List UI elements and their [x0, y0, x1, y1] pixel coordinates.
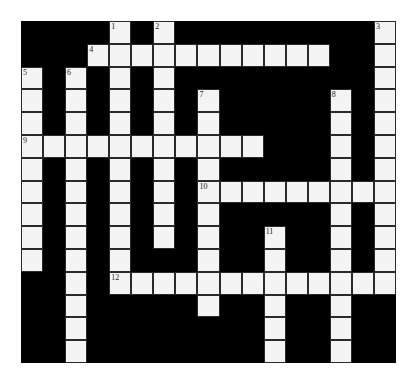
answer-cell[interactable]: 4	[87, 44, 109, 67]
answer-cell[interactable]	[220, 135, 242, 158]
answer-cell[interactable]	[109, 249, 131, 272]
answer-cell[interactable]	[374, 203, 396, 226]
answer-cell[interactable]	[65, 272, 87, 295]
answer-cell[interactable]: 8	[330, 89, 352, 112]
answer-cell[interactable]	[330, 272, 352, 295]
answer-cell[interactable]	[330, 203, 352, 226]
answer-cell[interactable]	[65, 295, 87, 318]
answer-cell[interactable]	[21, 158, 43, 181]
answer-cell[interactable]	[374, 67, 396, 90]
answer-cell[interactable]	[197, 249, 219, 272]
answer-cell[interactable]	[264, 272, 286, 295]
answer-cell[interactable]	[197, 158, 219, 181]
answer-cell[interactable]	[109, 112, 131, 135]
answer-cell[interactable]	[153, 89, 175, 112]
answer-cell[interactable]	[374, 89, 396, 112]
answer-cell[interactable]	[330, 340, 352, 363]
answer-cell[interactable]	[153, 181, 175, 204]
answer-cell[interactable]	[153, 272, 175, 295]
answer-cell[interactable]	[374, 226, 396, 249]
answer-cell[interactable]	[109, 203, 131, 226]
answer-cell[interactable]	[153, 203, 175, 226]
answer-cell[interactable]: 5	[21, 67, 43, 90]
answer-cell[interactable]	[65, 89, 87, 112]
answer-cell[interactable]	[197, 135, 219, 158]
answer-cell[interactable]	[286, 181, 308, 204]
answer-cell[interactable]	[109, 158, 131, 181]
answer-cell[interactable]: 2	[153, 21, 175, 44]
answer-cell[interactable]	[264, 44, 286, 67]
answer-cell[interactable]	[21, 181, 43, 204]
answer-cell[interactable]	[153, 135, 175, 158]
answer-cell[interactable]	[197, 203, 219, 226]
answer-cell[interactable]	[308, 272, 330, 295]
answer-cell[interactable]: 1	[109, 21, 131, 44]
answer-cell[interactable]	[286, 272, 308, 295]
answer-cell[interactable]	[21, 249, 43, 272]
answer-cell[interactable]	[330, 249, 352, 272]
answer-cell[interactable]	[109, 135, 131, 158]
answer-cell[interactable]	[197, 112, 219, 135]
answer-cell[interactable]	[109, 89, 131, 112]
answer-cell[interactable]	[153, 112, 175, 135]
answer-cell[interactable]	[330, 295, 352, 318]
answer-cell[interactable]	[175, 135, 197, 158]
answer-cell[interactable]	[43, 135, 65, 158]
answer-cell[interactable]	[220, 181, 242, 204]
answer-cell[interactable]	[330, 158, 352, 181]
answer-cell[interactable]	[264, 181, 286, 204]
answer-cell[interactable]	[153, 158, 175, 181]
answer-cell[interactable]	[65, 249, 87, 272]
answer-cell[interactable]	[131, 44, 153, 67]
answer-cell[interactable]	[87, 135, 109, 158]
answer-cell[interactable]	[109, 44, 131, 67]
answer-cell[interactable]	[352, 272, 374, 295]
answer-cell[interactable]	[109, 67, 131, 90]
answer-cell[interactable]	[264, 295, 286, 318]
answer-cell[interactable]	[153, 226, 175, 249]
answer-cell[interactable]: 10	[197, 181, 219, 204]
answer-cell[interactable]	[197, 272, 219, 295]
answer-cell[interactable]	[175, 272, 197, 295]
answer-cell[interactable]	[330, 135, 352, 158]
answer-cell[interactable]	[352, 181, 374, 204]
answer-cell[interactable]	[21, 89, 43, 112]
answer-cell[interactable]	[330, 317, 352, 340]
answer-cell[interactable]	[21, 203, 43, 226]
answer-cell[interactable]	[65, 226, 87, 249]
answer-cell[interactable]	[330, 181, 352, 204]
answer-cell[interactable]	[264, 249, 286, 272]
answer-cell[interactable]	[197, 44, 219, 67]
answer-cell[interactable]	[131, 272, 153, 295]
answer-cell[interactable]	[65, 112, 87, 135]
answer-cell[interactable]	[374, 44, 396, 67]
answer-cell[interactable]	[153, 44, 175, 67]
answer-cell[interactable]	[21, 226, 43, 249]
answer-cell[interactable]	[374, 135, 396, 158]
answer-cell[interactable]	[242, 181, 264, 204]
answer-cell[interactable]	[242, 44, 264, 67]
answer-cell[interactable]	[374, 112, 396, 135]
answer-cell[interactable]: 9	[21, 135, 43, 158]
answer-cell[interactable]	[65, 317, 87, 340]
answer-cell[interactable]	[65, 203, 87, 226]
answer-cell[interactable]	[153, 67, 175, 90]
answer-cell[interactable]	[330, 112, 352, 135]
answer-cell[interactable]	[197, 295, 219, 318]
answer-cell[interactable]: 11	[264, 226, 286, 249]
answer-cell[interactable]	[220, 44, 242, 67]
answer-cell[interactable]	[374, 272, 396, 295]
answer-cell[interactable]	[131, 135, 153, 158]
answer-cell[interactable]	[374, 249, 396, 272]
answer-cell[interactable]	[264, 317, 286, 340]
answer-cell[interactable]	[308, 181, 330, 204]
answer-cell[interactable]	[374, 158, 396, 181]
answer-cell[interactable]	[65, 181, 87, 204]
answer-cell[interactable]	[330, 226, 352, 249]
answer-cell[interactable]: 3	[374, 21, 396, 44]
answer-cell[interactable]: 12	[109, 272, 131, 295]
answer-cell[interactable]	[175, 44, 197, 67]
answer-cell[interactable]	[197, 226, 219, 249]
answer-cell[interactable]: 6	[65, 67, 87, 90]
answer-cell[interactable]	[374, 181, 396, 204]
